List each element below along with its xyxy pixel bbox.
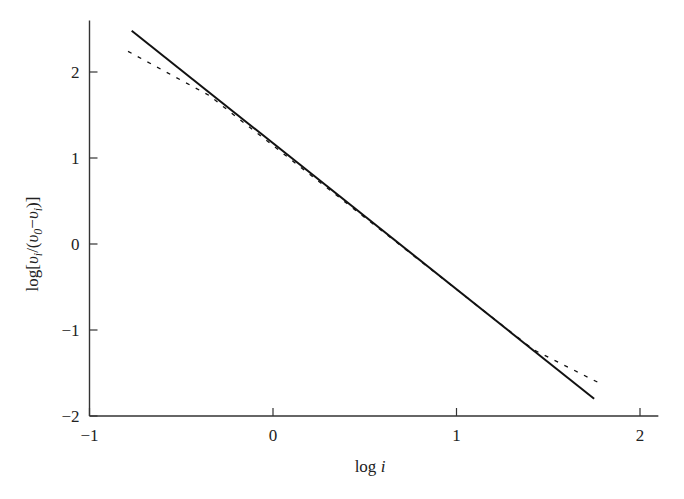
y-tick-label: 0: [71, 235, 80, 254]
y-tick-label: 2: [71, 63, 80, 82]
x-tick-label: 1: [452, 426, 461, 445]
y-tick-label: 1: [71, 149, 80, 168]
axes: −1012−2−1012: [61, 20, 658, 445]
y-tick-label: −1: [61, 321, 79, 340]
y-tick-label: −2: [61, 407, 79, 426]
solid-line: [132, 31, 594, 399]
y-axis-label: log[υi/(υ0−υi)]: [23, 197, 45, 292]
x-tick-label: 2: [636, 426, 645, 445]
x-axis-label: log i: [355, 457, 386, 476]
x-tick-label: −1: [80, 426, 98, 445]
chart: −1012−2−1012 log i log[υi/(υ0−υi)]: [0, 0, 684, 499]
series-layer: [128, 31, 603, 399]
x-tick-label: 0: [269, 426, 278, 445]
